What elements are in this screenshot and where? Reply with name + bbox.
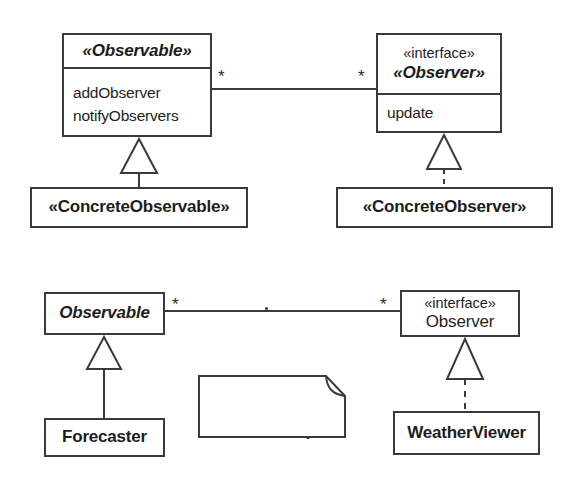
note-line-3: forecast is ready (207, 421, 314, 441)
note-line-1: Observers are (207, 381, 299, 401)
class-box-concrete-observer[interactable]: «ConcreteObserver» (336, 187, 553, 228)
class-box-concrete-observable[interactable]: «ConcreteObservable» (30, 187, 248, 228)
interface-members-compartment: update (378, 93, 500, 131)
multiplicity-bottom-target: * (380, 296, 387, 313)
class-box-forecaster[interactable]: Forecaster (44, 418, 165, 457)
generalization-arrowhead-concrete-observable (121, 139, 157, 173)
class-box-observer-interface[interactable]: «interface» «Observer» update (376, 33, 502, 133)
multiplicity-top-source: * (218, 68, 225, 85)
stereotype-interface-observer-example: «interface» (402, 295, 518, 312)
class-member-update: update (378, 102, 500, 124)
class-box-weather-viewer[interactable]: WeatherViewer (393, 411, 540, 455)
class-name-observable-abstract: «Observable» (64, 41, 210, 61)
class-name-concrete-observable: «ConcreteObservable» (32, 197, 246, 217)
class-name-observer-example: Observer (402, 312, 518, 332)
realization-arrowhead-weather-viewer (447, 339, 483, 379)
class-name-observable: Observable (46, 303, 163, 323)
interface-name-compartment: «interface» «Observer» (378, 35, 500, 93)
multiplicity-bottom-source: * (172, 296, 179, 313)
class-name-forecaster: Forecaster (46, 427, 163, 447)
multiplicity-top-target: * (358, 68, 365, 85)
realization-arrowhead-concrete-observer (427, 135, 461, 169)
note-fold-corner (326, 376, 345, 396)
class-box-observer-interface-example[interactable]: «interface» Observer (400, 290, 520, 337)
class-name-concrete-observer: «ConcreteObserver» (338, 197, 551, 217)
class-box-observable-concrete-example[interactable]: Observable (44, 292, 165, 335)
class-member-notify-observers: notifyObservers (64, 105, 210, 127)
association-dot-marker (265, 307, 268, 310)
note-line-2: notified when a new (207, 401, 336, 421)
class-members-compartment: addObserver notifyObservers (64, 67, 210, 135)
generalization-arrowhead-forecaster (87, 337, 121, 369)
stereotype-interface-observer: «interface» (378, 45, 500, 62)
class-name-weather-viewer: WeatherViewer (395, 423, 538, 443)
class-name-observer-interface: «Observer» (378, 63, 500, 83)
class-name-compartment: «Observable» (64, 35, 210, 67)
class-box-observable-abstract[interactable]: «Observable» addObserver notifyObservers (62, 33, 212, 137)
uml-diagram-canvas: «Observable» addObserver notifyObservers… (0, 0, 569, 481)
class-member-add-observer: addObserver (64, 82, 210, 104)
